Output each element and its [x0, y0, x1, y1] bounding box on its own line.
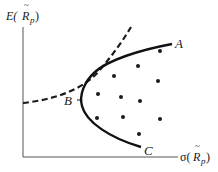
y-axis-label: E( R ~ p ) — [5, 0, 39, 25]
tilde-glyph: ~ — [195, 141, 200, 151]
asset-dot — [112, 74, 116, 78]
asset-dot — [136, 64, 140, 68]
asset-dot — [96, 92, 100, 96]
asset-dot — [156, 79, 160, 83]
svg-text:R: R — [192, 150, 201, 164]
x-axis-label: σ( R ~ p ) — [180, 141, 210, 166]
label-point-a: A — [174, 36, 183, 51]
asset-dot — [121, 115, 125, 119]
asset-dot — [137, 132, 141, 136]
asset-dot — [138, 99, 142, 103]
label-point-b: B — [64, 93, 72, 108]
svg-text:R: R — [21, 9, 30, 23]
minimum-variance-frontier — [81, 44, 172, 147]
svg-text:σ(: σ( — [180, 150, 190, 164]
asset-points — [95, 49, 162, 136]
label-point-c: C — [144, 143, 153, 158]
asset-dot — [158, 117, 162, 121]
svg-text:E(: E( — [5, 9, 18, 23]
asset-dot — [119, 95, 123, 99]
svg-text:): ) — [206, 150, 210, 164]
indifference-curve — [23, 27, 131, 103]
asset-dot — [158, 49, 162, 53]
diagram-canvas: E( R ~ p ) σ( R ~ p ) A B C — [0, 0, 218, 172]
tilde-glyph: ~ — [24, 0, 29, 10]
svg-text:): ) — [35, 9, 39, 23]
asset-dot — [95, 116, 99, 120]
efficient-frontier-diagram: E( R ~ p ) σ( R ~ p ) A B C — [0, 0, 218, 172]
